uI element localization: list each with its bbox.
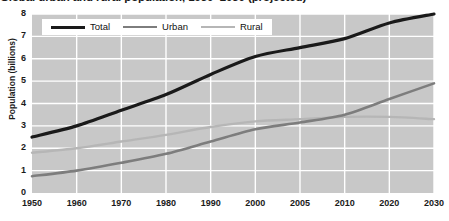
x-tick-label: 1950 bbox=[12, 199, 52, 208]
x-tick-label: 2010 bbox=[325, 199, 365, 208]
chart-legend: TotalUrbanRural bbox=[42, 19, 272, 35]
legend-item-rural[interactable]: Rural bbox=[201, 22, 263, 32]
x-tick-label: 2000 bbox=[235, 199, 275, 208]
legend-item-total[interactable]: Total bbox=[51, 22, 110, 32]
legend-label: Total bbox=[90, 22, 110, 32]
x-tick-label: 1970 bbox=[101, 199, 141, 208]
x-tick-label: 1980 bbox=[146, 199, 186, 208]
legend-swatch-urban-icon bbox=[123, 26, 157, 28]
legend-swatch-rural-icon bbox=[201, 26, 235, 28]
x-tick-label: 1990 bbox=[191, 199, 231, 208]
x-tick-label: 2030 bbox=[414, 199, 449, 208]
legend-swatch-total-icon bbox=[51, 26, 85, 29]
legend-label: Urban bbox=[162, 22, 188, 32]
legend-item-urban[interactable]: Urban bbox=[123, 22, 188, 32]
x-tick-label: 2005 bbox=[280, 199, 320, 208]
legend-label: Rural bbox=[240, 22, 263, 32]
x-tick-label: 1960 bbox=[57, 199, 97, 208]
x-tick-label: 2020 bbox=[369, 199, 409, 208]
